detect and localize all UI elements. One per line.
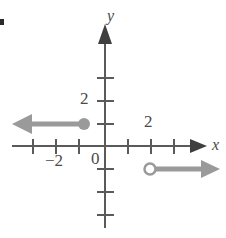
y-axis-label: y bbox=[107, 8, 114, 24]
right-ray-arrowhead bbox=[201, 160, 220, 178]
x-tick-label-2: 2 bbox=[144, 113, 153, 130]
x-tick-label-negative-2: −2 bbox=[45, 152, 63, 169]
x-axis-arrowhead bbox=[190, 139, 207, 153]
right-ray-open-endpoint bbox=[145, 164, 156, 175]
left-ray-arrowhead bbox=[12, 114, 32, 134]
graph-figure: y x 2 2 −2 0 bbox=[0, 0, 226, 238]
y-axis-arrowhead bbox=[98, 24, 112, 44]
item-bullet-marker bbox=[0, 19, 4, 25]
right-ray-group bbox=[145, 160, 221, 178]
x-axis-label: x bbox=[212, 137, 219, 153]
origin-label: 0 bbox=[91, 150, 100, 167]
axes-group bbox=[12, 29, 197, 228]
y-tick-label-2: 2 bbox=[80, 90, 89, 107]
coordinate-plane-svg bbox=[0, 0, 226, 238]
left-ray-group bbox=[12, 114, 90, 134]
left-ray-closed-endpoint bbox=[78, 118, 90, 130]
